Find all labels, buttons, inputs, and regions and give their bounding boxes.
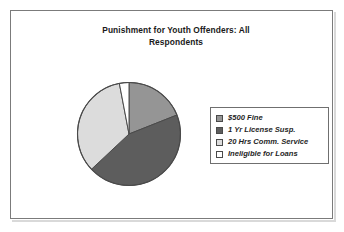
legend-item-3[interactable]: Ineligible for Loans [216, 148, 328, 160]
pie-chart [74, 79, 184, 189]
legend-label-0: $500 Fine [228, 113, 263, 123]
legend: $500 Fine 1 Yr License Susp. 20 Hrs Comm… [210, 107, 329, 164]
frame-shadow-bottom [12, 220, 336, 222]
legend-swatch-license-susp [216, 127, 223, 134]
legend-item-0[interactable]: $500 Fine [216, 112, 328, 124]
chart-title-line-1: Punishment for Youth Offenders: All [51, 25, 301, 37]
chart-title: Punishment for Youth Offenders: All Resp… [51, 25, 301, 48]
legend-label-2: 20 Hrs Comm. Service [228, 137, 308, 147]
legend-item-2[interactable]: 20 Hrs Comm. Service [216, 136, 328, 148]
chart-frame: Punishment for Youth Offenders: All Resp… [10, 10, 333, 219]
legend-label-1: 1 Yr License Susp. [228, 125, 295, 135]
frame-shadow-right [334, 12, 336, 221]
legend-swatch-500-fine [216, 115, 223, 122]
legend-swatch-comm-service [216, 139, 223, 146]
legend-swatch-ineligible-loans [216, 151, 223, 158]
legend-item-1[interactable]: 1 Yr License Susp. [216, 124, 328, 136]
figure-root: Punishment for Youth Offenders: All Resp… [0, 0, 344, 232]
pie-chart-svg [74, 79, 184, 189]
chart-title-line-2: Respondents [51, 37, 301, 49]
legend-label-3: Ineligible for Loans [228, 149, 298, 159]
